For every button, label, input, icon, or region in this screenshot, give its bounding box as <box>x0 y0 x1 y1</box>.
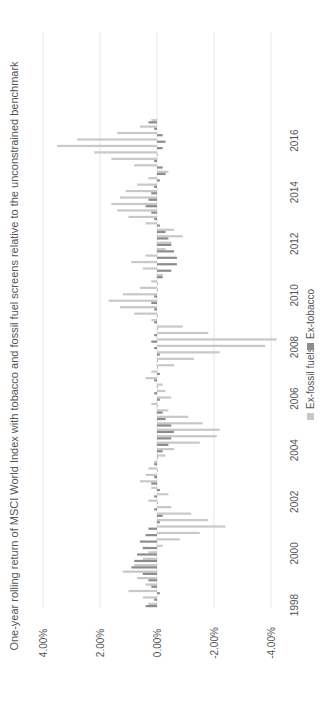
bar-ex-tobacco <box>157 412 163 414</box>
bar-ex-fossil-fuels <box>157 513 191 515</box>
bar-ex-tobacco <box>154 186 157 188</box>
bar-ex-tobacco <box>154 218 157 220</box>
value-tick-label: -4.00% <box>266 627 277 659</box>
bar-ex-tobacco <box>157 405 158 407</box>
bar-ex-fossil-fuels <box>157 358 194 360</box>
year-tick-label: 2004 <box>289 439 300 462</box>
bar-ex-tobacco <box>157 386 158 388</box>
bar-ex-tobacco <box>157 270 171 272</box>
bar-ex-tobacco <box>154 463 157 465</box>
bar-ex-fossil-fuels <box>157 454 166 456</box>
value-tick-label: 4.00% <box>38 629 49 657</box>
bar-ex-fossil-fuels <box>148 551 157 553</box>
bar-ex-fossil-fuels <box>157 325 183 327</box>
legend-label: Ex-tobacco <box>305 289 316 339</box>
bar-ex-fossil-fuels <box>157 442 200 444</box>
bar-ex-tobacco <box>151 341 157 343</box>
bar-ex-tobacco <box>154 308 157 310</box>
bar-ex-tobacco <box>157 470 158 472</box>
bar-ex-fossil-fuels <box>137 577 157 579</box>
bar-ex-fossil-fuels <box>146 255 157 257</box>
bar-ex-fossil-fuels <box>143 267 157 269</box>
legend: Ex-fossil fuelsEx-tobacco <box>305 289 316 420</box>
bar-ex-tobacco <box>143 573 157 575</box>
bar-ex-tobacco <box>157 399 160 401</box>
bar-ex-fossil-fuels <box>157 532 200 534</box>
bar-ex-fossil-fuels <box>146 222 157 224</box>
bar-ex-fossil-fuels <box>109 300 157 302</box>
bar-ex-tobacco <box>157 154 158 156</box>
year-tick-label: 1998 <box>289 593 300 616</box>
bar-ex-fossil-fuels <box>140 126 157 128</box>
bar-ex-tobacco <box>146 605 157 607</box>
bar-ex-fossil-fuels <box>117 132 157 134</box>
bar-ex-fossil-fuels <box>157 435 217 437</box>
bar-ex-fossil-fuels <box>157 538 180 540</box>
bar-ex-tobacco <box>154 160 157 162</box>
bar-ex-tobacco <box>157 521 160 523</box>
year-tick-label: 2014 <box>289 181 300 204</box>
bar-ex-tobacco <box>157 437 171 439</box>
bar-ex-tobacco <box>151 212 157 214</box>
bar-ex-fossil-fuels <box>157 332 208 334</box>
bar-ex-tobacco <box>157 237 168 239</box>
bar-ex-fossil-fuels <box>148 467 157 469</box>
bar-ex-tobacco <box>154 508 157 510</box>
bar-ex-fossil-fuels <box>157 519 208 521</box>
bar-ex-tobacco <box>154 347 157 349</box>
bar-ex-tobacco <box>151 482 157 484</box>
bar-ex-fossil-fuels <box>120 196 157 198</box>
bar-ex-fossil-fuels <box>157 396 171 398</box>
bar-ex-fossil-fuels <box>111 158 157 160</box>
bar-ex-tobacco <box>151 302 157 304</box>
bar-ex-tobacco <box>157 444 168 446</box>
bar-ex-fossil-fuels <box>151 371 157 373</box>
bar-ex-tobacco <box>151 192 157 194</box>
value-tick-label: 0.00% <box>152 629 163 657</box>
bar-ex-fossil-fuels <box>146 583 157 585</box>
year-tick-label: 2002 <box>289 490 300 513</box>
bar-ex-tobacco <box>157 257 177 259</box>
bar-ex-tobacco <box>157 418 166 420</box>
bar-ex-fossil-fuels <box>157 409 168 411</box>
bar-ex-fossil-fuels <box>157 422 203 424</box>
bar-ex-fossil-fuels <box>148 603 157 605</box>
bar-ex-fossil-fuels <box>120 306 157 308</box>
bar-ex-fossil-fuels <box>157 364 174 366</box>
bar-ex-fossil-fuels <box>148 177 157 179</box>
bar-ex-fossil-fuels <box>111 203 157 205</box>
bar-ex-fossil-fuels <box>134 313 157 315</box>
bar-ex-fossil-fuels <box>143 558 157 560</box>
year-tick-label: 2006 <box>289 387 300 410</box>
year-tick-label: 2016 <box>289 129 300 152</box>
bar-ex-fossil-fuels <box>94 151 157 153</box>
bar-ex-fossil-fuels <box>157 274 163 276</box>
bar-ex-tobacco <box>146 205 157 207</box>
bar-ex-tobacco <box>154 321 157 323</box>
bar-ex-tobacco <box>157 173 166 175</box>
bar-ex-fossil-fuels <box>151 403 157 405</box>
bar-ex-fossil-fuels <box>151 119 157 121</box>
bar-ex-tobacco <box>157 450 163 452</box>
bar-ex-fossil-fuels <box>157 229 174 231</box>
year-tick-label: 2012 <box>289 232 300 255</box>
bar-ex-tobacco <box>146 534 157 536</box>
bar-ex-tobacco <box>143 547 157 549</box>
bar-ex-tobacco <box>154 128 157 130</box>
bar-ex-tobacco <box>154 495 157 497</box>
value-tick-label: 2.00% <box>95 629 106 657</box>
bar-ex-tobacco <box>154 392 157 394</box>
bar-ex-tobacco <box>154 334 157 336</box>
bar-ex-tobacco <box>154 476 157 478</box>
bar-ex-fossil-fuels <box>157 235 183 237</box>
bar-ex-fossil-fuels <box>148 500 157 502</box>
chart-stage: One-year rolling return of MSCI World In… <box>0 0 324 712</box>
bar-ex-tobacco <box>148 199 157 201</box>
bar-ex-tobacco <box>157 244 171 246</box>
bar-ex-tobacco <box>157 360 158 362</box>
bar-ex-tobacco <box>157 328 158 330</box>
bar-ex-fossil-fuels <box>157 390 166 392</box>
year-axis-ticks: 1998200020022004200620082010201220142016 <box>289 129 300 616</box>
bar-ex-fossil-fuels <box>134 564 157 566</box>
bar-ex-fossil-fuels <box>134 164 157 166</box>
